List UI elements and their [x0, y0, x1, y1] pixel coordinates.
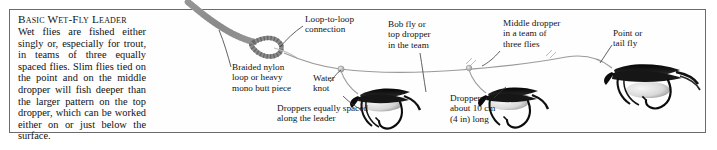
description-block: Basic Wet-Fly Leader Wet flies are fishe…: [18, 13, 146, 142]
label-middle-dropper: Middle dropper in a team of three flies: [503, 18, 560, 49]
label-point-or-tail-fly: Point or tail fly: [613, 28, 642, 49]
label-braided-nylon-loop: Braided nylon loop or heavy mono butt pi…: [232, 62, 291, 93]
description-text: Wet flies are fished either singly or, e…: [18, 26, 146, 142]
page-title: Basic Wet-Fly Leader: [18, 13, 146, 25]
label-bob-fly: Bob fly or top dropper in the team: [388, 19, 431, 50]
label-water-knot: Water knot: [313, 73, 335, 94]
wet-fly-leader-figure: Basic Wet-Fly Leader Wet flies are fishe…: [0, 0, 717, 150]
label-loop-to-loop-connection: Loop-to-loop connection: [305, 14, 354, 35]
label-dropper-spacing: Droppers equally spaced along the leader: [277, 103, 368, 124]
label-dropper-length: Droppers about 10 cm (4 in) long: [450, 93, 495, 124]
